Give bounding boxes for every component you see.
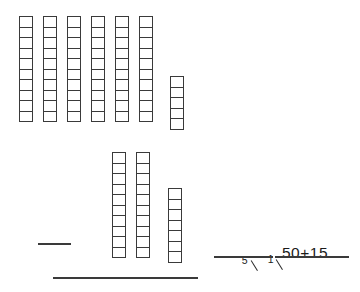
unit-square bbox=[139, 111, 153, 123]
standard-algorithm: 5 1 65 −27 bbox=[214, 204, 281, 292]
tens-rod bbox=[67, 16, 81, 122]
tens-rod bbox=[136, 152, 150, 258]
unit-square bbox=[136, 247, 150, 259]
unit-square bbox=[19, 111, 33, 123]
regrouped-minuend: 5 1 65 bbox=[243, 258, 281, 292]
ones-column bbox=[168, 188, 182, 263]
tens-rod bbox=[19, 16, 33, 122]
expanded-algorithm: 50+15 −20+ 7 bbox=[282, 204, 328, 292]
unit-square bbox=[43, 111, 57, 123]
minus-sign-blocks bbox=[38, 243, 71, 245]
standard-answer-rule bbox=[214, 256, 273, 258]
unit-square bbox=[91, 111, 105, 123]
standard-minuend-row: 5 1 65 bbox=[214, 240, 281, 264]
unit-square bbox=[112, 247, 126, 259]
unit-square bbox=[67, 111, 81, 123]
expanded-minuend-row: 50+15 bbox=[282, 240, 328, 268]
expanded-minuend: 50+15 bbox=[282, 244, 328, 261]
tens-rod bbox=[91, 16, 105, 122]
expanded-answer-rule bbox=[275, 256, 349, 258]
ones-column bbox=[170, 76, 184, 130]
tens-rod bbox=[115, 16, 129, 122]
tens-rod bbox=[139, 16, 153, 122]
subtraction-bar bbox=[53, 277, 198, 279]
unit-square bbox=[168, 251, 182, 263]
strikethrough-tens-icon bbox=[250, 260, 257, 271]
tens-rod bbox=[43, 16, 57, 122]
tens-rod bbox=[112, 152, 126, 258]
worksheet-canvas: 5 1 65 −27 50+15 −20+ 7 bbox=[0, 0, 360, 292]
unit-square bbox=[170, 118, 184, 130]
unit-square bbox=[115, 111, 129, 123]
